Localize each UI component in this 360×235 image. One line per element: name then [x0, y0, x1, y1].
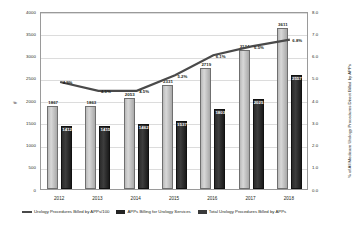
chart-container: # % of All Medicare Urology Procedures D…: [0, 0, 360, 235]
legend-item-line: Urology Procedures Billed by APPs/100: [22, 209, 109, 214]
y-tick-label-left: 1500: [2, 121, 36, 126]
legend-label-line: Urology Procedures Billed by APPs/100: [34, 209, 109, 214]
x-tick-label: 2017: [232, 196, 270, 201]
line-value-label: 6.1%: [216, 54, 226, 59]
y-tick-label-right: 3.0: [312, 121, 332, 126]
legend-item-total: Total Urology Procedures Billed by APPs: [198, 209, 286, 214]
y-tick-label-left: 1000: [2, 143, 36, 148]
line-value-label: 4.5%: [101, 89, 111, 94]
x-tick-label: 2013: [78, 196, 116, 201]
legend-label-total: Total Urology Procedures Billed by APPs: [209, 209, 286, 214]
y-tick-label-right: 5.0: [312, 76, 332, 81]
x-tick-label: 2015: [155, 196, 193, 201]
line-value-label: 6.5%: [254, 45, 264, 50]
legend-label-apps: APPs Billing for Urology Services: [127, 209, 190, 214]
x-tick-label: 2018: [270, 196, 308, 201]
y-tick-label-right: 2.0: [312, 143, 332, 148]
y-tick-label-left: 4000: [2, 10, 36, 15]
y-tick-label-right: 0.0: [312, 188, 332, 193]
y-tick-label-left: 3500: [2, 32, 36, 37]
legend: Urology Procedures Billed by APPs/100 AP…: [22, 209, 352, 214]
line-value-label: 5.2%: [178, 74, 188, 79]
legend-swatch-apps: [116, 210, 125, 214]
legend-swatch-line: [22, 211, 32, 213]
y-tick-label-right: 7.0: [312, 32, 332, 37]
x-tick-label: 2012: [40, 196, 78, 201]
line-value-label: 4.9%: [63, 80, 73, 85]
line-value-label: 6.8%: [292, 38, 302, 43]
x-tick-label: 2014: [117, 196, 155, 201]
x-tick-label: 2016: [193, 196, 231, 201]
line-value-label: 4.5%: [139, 89, 149, 94]
y-tick-label-right: 1.0: [312, 165, 332, 170]
y-tick-label-right: 4.0: [312, 99, 332, 104]
y-axis-right-title: % of All Medicare Urology Procedures Dir…: [347, 64, 352, 178]
trend-line: [41, 13, 309, 191]
y-tick-label-right: 8.0: [312, 10, 332, 15]
y-tick-label-left: 3000: [2, 54, 36, 59]
legend-swatch-total: [198, 210, 207, 214]
plot-area: 1867141218631415205314622331153727191803…: [40, 12, 308, 190]
legend-item-apps: APPs Billing for Urology Services: [116, 209, 190, 214]
y-tick-label-left: 2500: [2, 76, 36, 81]
y-tick-label-left: 0: [2, 188, 36, 193]
y-tick-label-left: 500: [2, 165, 36, 170]
y-tick-label-right: 6.0: [312, 54, 332, 59]
y-tick-label-left: 2000: [2, 99, 36, 104]
